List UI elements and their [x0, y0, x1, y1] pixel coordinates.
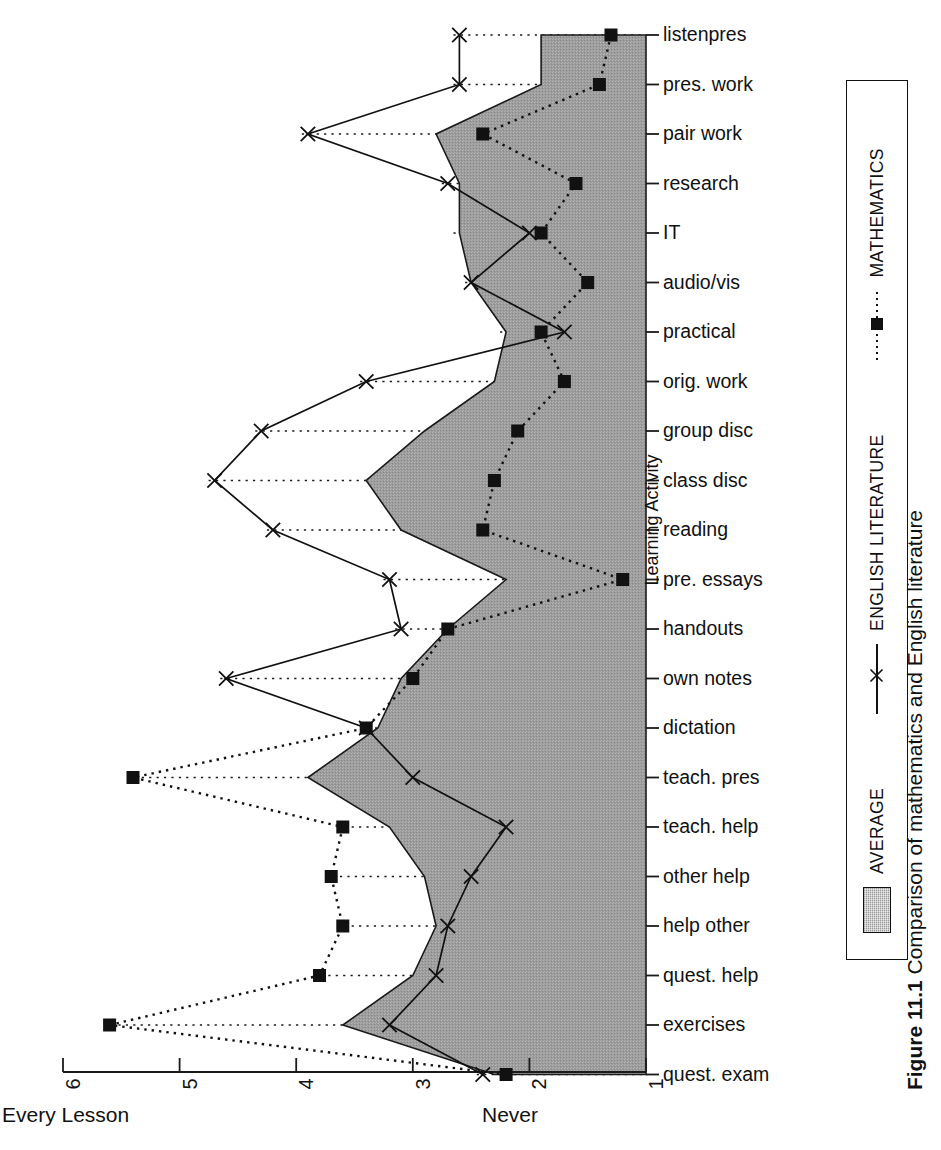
- figure-caption-number: Figure 11.1: [903, 980, 926, 1090]
- category-label: help other: [663, 916, 750, 936]
- category-label: teach. pres: [663, 768, 759, 788]
- series-average-area: [308, 35, 646, 1075]
- value-tick-label: 3: [413, 1078, 433, 1089]
- category-label: other help: [663, 867, 750, 887]
- chart-plot: [0, 0, 941, 1150]
- category-label: quest. help: [663, 966, 758, 986]
- legend-swatch-dotted-square-icon: [867, 290, 887, 360]
- category-label: reading: [663, 520, 728, 540]
- axis-end-label-every-lesson: Every Lesson: [2, 1104, 129, 1125]
- legend-swatch-line-x-icon: [867, 644, 887, 714]
- category-label: dictation: [663, 718, 736, 738]
- category-label: pres. work: [663, 75, 753, 95]
- legend-item-english-literature: ENGLISH LITERATURE: [867, 434, 888, 714]
- value-tick-label: 4: [296, 1078, 316, 1089]
- category-label: pair work: [663, 124, 742, 144]
- legend-label-mathematics: MATHEMATICS: [867, 148, 888, 277]
- figure-caption: Figure 11.1 Comparison of mathematics an…: [903, 510, 927, 1090]
- value-tick-label: 1: [646, 1078, 666, 1089]
- legend-label-average: AVERAGE: [867, 788, 888, 874]
- value-tick-label: 2: [529, 1078, 549, 1089]
- category-label: own notes: [663, 669, 752, 689]
- figure-caption-text: Comparison of mathematics and English li…: [903, 510, 926, 975]
- category-label: listenpres: [663, 25, 746, 45]
- category-label: group disc: [663, 421, 753, 441]
- category-label: exercises: [663, 1015, 745, 1035]
- value-tick-label: 5: [180, 1078, 200, 1089]
- axis-end-label-never: Never: [482, 1104, 538, 1125]
- legend-item-average: AVERAGE: [863, 788, 891, 933]
- legend-box: AVERAGE ENGLISH LITERATURE MATHEMATICS: [846, 80, 908, 960]
- category-label: IT: [663, 223, 680, 243]
- category-label: audio/vis: [663, 273, 740, 293]
- value-tick-label: 6: [63, 1078, 83, 1089]
- legend-label-english-literature: ENGLISH LITERATURE: [867, 434, 888, 631]
- category-label: teach. help: [663, 817, 758, 837]
- legend-swatch-area-icon: [863, 887, 891, 933]
- category-label: research: [663, 174, 739, 194]
- category-label: pre. essays: [663, 570, 763, 590]
- category-label: practical: [663, 322, 736, 342]
- category-label: handouts: [663, 619, 743, 639]
- category-label: orig. work: [663, 372, 748, 392]
- category-label: class disc: [663, 471, 748, 491]
- figure-root: listenprespres. workpair workresearchITa…: [0, 0, 941, 1150]
- legend-item-mathematics: MATHEMATICS: [867, 148, 888, 360]
- category-axis-title: Learning Activity: [643, 454, 661, 585]
- legend: AVERAGE ENGLISH LITERATURE MATHEMATICS: [846, 80, 908, 960]
- category-label: quest. exam: [663, 1065, 769, 1085]
